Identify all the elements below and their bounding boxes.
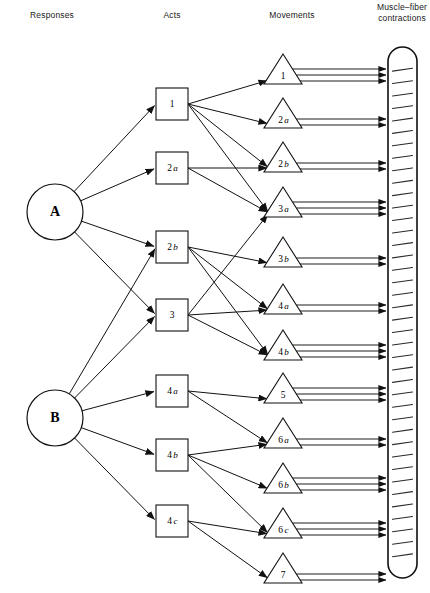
movement-node-mv4a[interactable]: 4a — [264, 284, 302, 314]
svg-text:a: a — [284, 115, 289, 125]
act-node-act2b[interactable]: 2b — [156, 231, 188, 263]
act-label: 2b — [167, 242, 178, 252]
act-node-act4a[interactable]: 4a — [156, 375, 188, 407]
act-square — [156, 231, 188, 263]
movement-node-mv6a[interactable]: 6a — [264, 418, 302, 448]
svg-text:2: 2 — [278, 115, 283, 125]
svg-text:a: a — [284, 301, 289, 311]
svg-text:a: a — [284, 435, 289, 445]
act-square — [156, 375, 188, 407]
act-square — [156, 505, 188, 537]
movement-node-mv2a[interactable]: 2a — [264, 98, 302, 128]
svg-text:b: b — [173, 242, 178, 252]
response-node-A[interactable]: A — [27, 184, 83, 240]
act-node-act1[interactable]: 1 — [156, 88, 188, 120]
svg-text:b: b — [284, 159, 289, 169]
svg-text:b: b — [173, 450, 178, 460]
edge-act4c-to-mv7 — [188, 521, 267, 578]
muscle-fiber-bar — [388, 47, 417, 578]
svg-text:4: 4 — [167, 386, 172, 396]
column-headers: ResponsesActsMovementsMuscle–fibercontra… — [30, 2, 427, 23]
svg-text:b: b — [284, 254, 289, 264]
svg-text:2: 2 — [278, 159, 283, 169]
movement-node-mv3b[interactable]: 3b — [264, 237, 302, 267]
edge-B-to-act4b — [81, 428, 154, 455]
edge-B-to-act3 — [75, 316, 155, 398]
svg-text:2: 2 — [167, 163, 172, 173]
svg-text:3: 3 — [170, 310, 175, 320]
edge-act4c-to-mv6c — [188, 521, 267, 534]
diagram-canvas: ResponsesActsMovementsMuscle–fibercontra… — [0, 0, 430, 593]
movement-label: 7 — [281, 570, 286, 580]
svg-text:b: b — [284, 480, 289, 490]
svg-text:3: 3 — [278, 254, 283, 264]
svg-text:7: 7 — [281, 570, 286, 580]
movement-label: 2a — [278, 115, 289, 125]
svg-text:a: a — [173, 163, 178, 173]
movement-node-mv2b[interactable]: 2b — [264, 142, 302, 172]
svg-text:1: 1 — [281, 71, 286, 81]
edge-act4b-to-mv6b — [188, 455, 267, 488]
svg-text:1: 1 — [170, 99, 175, 109]
svg-text:4: 4 — [278, 301, 283, 311]
act-node-act2a[interactable]: 2a — [156, 152, 188, 184]
act-label: 4b — [167, 450, 178, 460]
svg-text:6: 6 — [278, 480, 283, 490]
hierarchy-diagram: ResponsesActsMovementsMuscle–fibercontra… — [0, 0, 430, 593]
edge-A-to-act3 — [75, 232, 155, 314]
movement-triangle — [264, 98, 302, 128]
column-header-acts: Acts — [163, 10, 180, 20]
act-square — [156, 439, 188, 471]
edge-act3-to-mv4b — [188, 315, 267, 355]
svg-text:6: 6 — [278, 525, 283, 535]
act-square — [156, 152, 188, 184]
response-node-B[interactable]: B — [27, 390, 83, 446]
act-label: 1 — [170, 99, 175, 109]
movement-node-mv7[interactable]: 7 — [264, 553, 302, 583]
svg-text:c: c — [174, 516, 178, 526]
muscle-fiber-capsule — [388, 47, 417, 578]
nodes-layer: AB12a2b34a4b4c12a2b3a3b4a4b56a6b6c7 — [27, 54, 302, 583]
column-header-movements: Movements — [269, 10, 314, 20]
edge-act3-to-mv4a — [188, 310, 267, 315]
movement-triangle — [264, 237, 302, 267]
edge-act2b-to-mv3b — [188, 247, 267, 263]
svg-text:4: 4 — [167, 450, 172, 460]
edge-act2a-to-mv3a — [188, 168, 267, 212]
movement-triangle — [264, 418, 302, 448]
movement-label: 6a — [278, 435, 289, 445]
fiber-links-layer — [293, 69, 387, 580]
svg-text:4: 4 — [167, 516, 172, 526]
movement-label: 2b — [278, 159, 289, 169]
response-label: B — [50, 410, 59, 425]
act-label: 3 — [170, 310, 175, 320]
svg-text:5: 5 — [281, 390, 286, 400]
act-node-act4b[interactable]: 4b — [156, 439, 188, 471]
movement-label: 6b — [278, 480, 289, 490]
svg-text:a: a — [173, 386, 178, 396]
svg-text:3: 3 — [278, 204, 283, 214]
svg-text:c: c — [285, 525, 289, 535]
svg-text:2: 2 — [167, 242, 172, 252]
movement-triangle — [264, 284, 302, 314]
act-node-act3[interactable]: 3 — [156, 299, 188, 331]
svg-text:b: b — [284, 347, 289, 357]
movement-label: 3b — [278, 254, 289, 264]
edge-A-to-act2b — [81, 221, 154, 246]
edge-act4a-to-mv5 — [188, 391, 267, 399]
edge-act1-to-mv1 — [188, 81, 267, 104]
edge-act4b-to-mv6a — [188, 444, 267, 455]
movement-label: 4a — [278, 301, 289, 311]
column-header-responses: Responses — [30, 10, 74, 20]
column-header-muscle-line2: contractions — [378, 13, 426, 23]
edge-A-to-act1 — [74, 105, 155, 191]
movement-label: 1 — [281, 71, 286, 81]
edge-act4b-to-mv6c — [188, 455, 268, 533]
response-label: A — [50, 204, 61, 219]
svg-text:4: 4 — [278, 347, 283, 357]
act-label: 2a — [167, 163, 178, 173]
act-node-act4c[interactable]: 4c — [156, 505, 188, 537]
movement-triangle — [264, 142, 302, 172]
movement-label: 3a — [278, 204, 289, 214]
edge-B-to-act4a — [82, 392, 154, 411]
